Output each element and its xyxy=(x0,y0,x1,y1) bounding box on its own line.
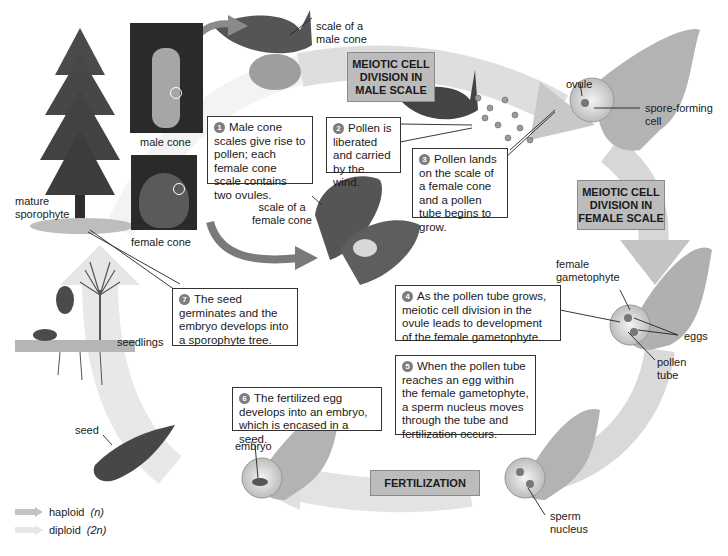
haploid-arrow-icon xyxy=(15,507,43,517)
label-female-cone: female cone xyxy=(131,236,191,249)
label-eggs: eggs xyxy=(684,330,708,343)
step-3-badge: 3 xyxy=(419,154,430,165)
step-2-badge: 2 xyxy=(333,123,344,134)
label-seed: seed xyxy=(75,424,99,437)
stage-meiosis-female: MEIOTIC CELL DIVISION IN FEMALE SCALE xyxy=(577,180,665,230)
label-scale-female-cone: scale of a female cone xyxy=(248,201,316,227)
male-cone-photo xyxy=(130,23,203,133)
step-4-callout: 4As the pollen tube grows, meiotic cell … xyxy=(395,285,561,341)
step-4-text: As the pollen tube grows, meiotic cell d… xyxy=(402,290,546,343)
step-5-badge: 5 xyxy=(402,361,413,372)
label-seedlings: seedlings xyxy=(117,336,163,349)
legend-diploid-suffix: (2n) xyxy=(87,524,107,536)
legend-haploid: haploid (n) xyxy=(15,506,104,518)
step-5-text: When the pollen tube reaches an egg with… xyxy=(402,360,529,440)
step-4-badge: 4 xyxy=(402,291,413,302)
legend-diploid: diploid (2n) xyxy=(15,524,106,536)
step-2-callout: 2Pollen is liberated and carried by the … xyxy=(326,117,401,173)
step-6-badge: 6 xyxy=(239,393,250,404)
diploid-arrow-icon xyxy=(15,525,43,535)
step-1-callout: 1Male cone scales give rise to pollen; e… xyxy=(207,116,313,184)
step-6-callout: 6The fertilized egg develops into an emb… xyxy=(232,387,382,431)
step-7-text: The seed germinates and the embryo devel… xyxy=(179,293,288,346)
female-cone-photo xyxy=(131,155,197,230)
label-mature-sporophyte: mature sporophyte xyxy=(15,195,75,221)
step-5-callout: 5When the pollen tube reaches an egg wit… xyxy=(395,355,536,435)
label-spore-forming-cell: spore-forming cell xyxy=(645,102,715,128)
label-pollen-tube: pollen tube xyxy=(657,356,697,382)
step-1-badge: 1 xyxy=(214,122,225,133)
legend-haploid-label: haploid xyxy=(49,506,84,518)
stage-meiosis-male: MEIOTIC CELL DIVISION IN MALE SCALE xyxy=(347,52,435,102)
label-scale-male-cone: scale of a male cone xyxy=(316,20,376,46)
label-ovule: ovule xyxy=(566,78,592,91)
label-female-gametophyte: female gametophyte xyxy=(556,258,626,284)
step-3-callout: 3Pollen lands on the scale of a female c… xyxy=(412,148,508,218)
stage-fertilization: FERTILIZATION xyxy=(370,470,480,496)
legend-haploid-suffix: (n) xyxy=(90,506,103,518)
label-male-cone: male cone xyxy=(140,136,191,149)
step-7-callout: 7The seed germinates and the embryo deve… xyxy=(172,288,298,346)
legend-diploid-label: diploid xyxy=(49,524,81,536)
label-sperm-nucleus: sperm nucleus xyxy=(550,510,598,536)
step-7-badge: 7 xyxy=(179,294,190,305)
